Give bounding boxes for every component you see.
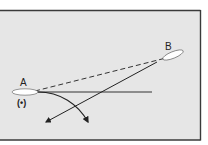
diagram-canvas: A B (•) xyxy=(0,0,208,145)
a-marker-label: (•) xyxy=(17,98,26,108)
label-a: A xyxy=(20,77,27,88)
label-b: B xyxy=(165,41,172,52)
ellipse-a xyxy=(12,89,38,95)
